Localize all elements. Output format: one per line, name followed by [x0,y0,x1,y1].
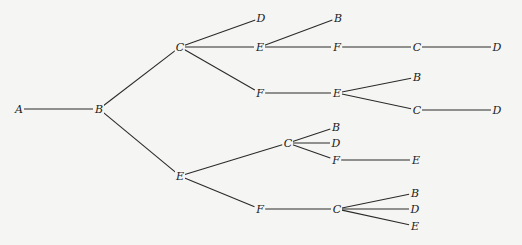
tree-edge [185,178,255,207]
tree-node-b: B [331,122,341,133]
tree-node-f: F [255,88,265,99]
tree-diagram: ABCEDEFBFCDEBCDCFBDFECBDE [0,0,522,245]
tree-node-f: F [331,155,341,166]
tree-edge [342,194,409,208]
tree-node-d: D [410,204,421,215]
tree-node-f: F [332,42,342,53]
tree-node-c: C [412,42,422,53]
tree-node-c: C [175,42,185,53]
tree-node-e: E [175,171,185,182]
tree-node-e: E [411,155,421,166]
tree-edge [103,112,175,172]
tree-edge [342,94,411,109]
tree-node-c: C [332,204,342,215]
tree-node-d: D [492,105,503,116]
tree-node-b: B [412,72,422,83]
tree-edge [185,145,282,175]
tree-node-f: F [255,204,265,215]
tree-node-b: B [94,104,104,115]
tree-node-e: E [255,42,265,53]
tree-node-b: B [333,13,343,24]
tree-node-d: D [331,138,342,149]
tree-node-c: C [283,138,293,149]
tree-edge [265,20,333,45]
tree-node-e: E [332,88,342,99]
tree-node-a: A [14,104,24,115]
tree-edge [293,145,331,158]
tree-node-d: D [256,13,267,24]
tree-node-e: E [410,221,420,232]
tree-edge [184,50,255,91]
tree-node-c: C [412,105,422,116]
tree-node-b: B [410,188,420,199]
tree-edge [293,129,331,142]
tree-node-d: D [492,42,503,53]
tree-edge [342,210,409,225]
tree-edge [185,20,256,45]
tree-edge [103,51,175,106]
tree-edge [342,78,411,92]
